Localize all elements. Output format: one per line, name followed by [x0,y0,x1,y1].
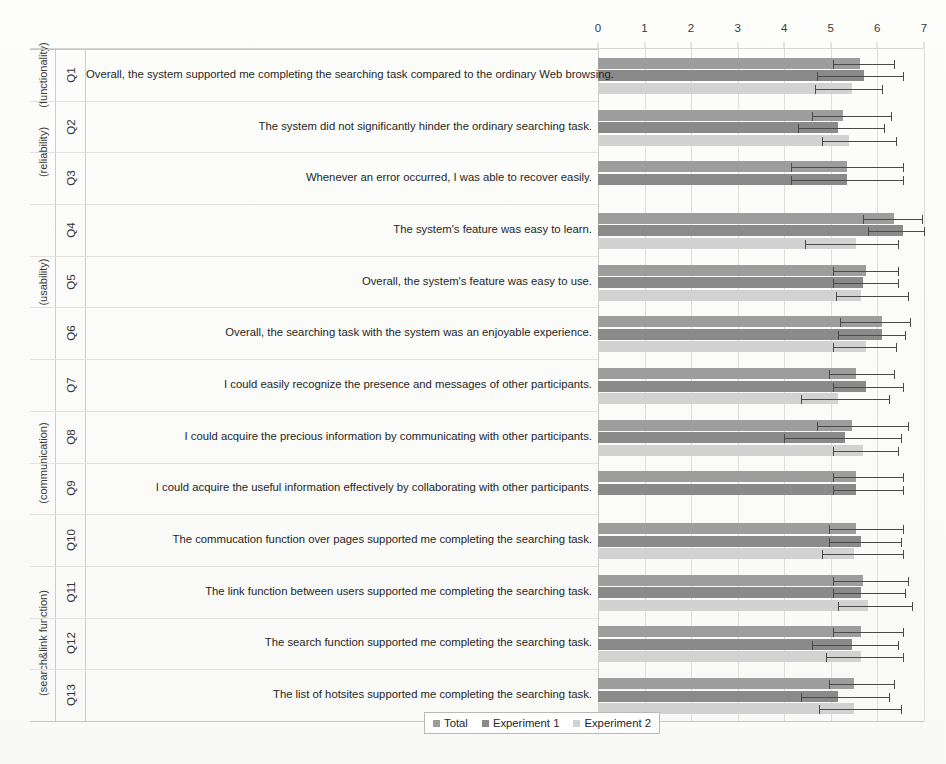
x-axis-tick-label: 5 [828,22,835,34]
error-bar-cap-upper [908,292,909,301]
error-bar-cap-upper [908,422,909,431]
error-bar-cap-upper [905,589,906,598]
question-id-cell-q2: Q2 [56,101,86,153]
question-id-label: Q13 [65,684,77,706]
category-group-usability: (usability) [30,204,56,359]
error-bar-cap-lower [833,486,834,495]
error-bar-cap-lower [829,680,830,689]
question-id-cell-q4: Q4 [56,204,86,256]
row-separator [30,566,598,567]
error-bar-line [833,451,898,452]
error-bar-cap-lower [868,227,869,236]
legend-item-experiment-2[interactable]: Experiment 2 [573,717,651,729]
group-separator [30,49,598,50]
error-bar-cap-upper [912,602,913,611]
error-bar-cap-upper [903,72,904,81]
bar-q7-experiment-1 [598,381,866,392]
error-bar-cap-upper [922,215,923,224]
error-bar-line [784,438,900,439]
error-bar-cap-upper [882,85,883,94]
error-bar-cap-upper [903,486,904,495]
question-id-label: Q9 [65,481,77,496]
bar-q5-total [598,265,866,276]
bar-q10-experiment-1 [598,536,861,547]
legend-item-total[interactable]: Total [433,717,468,729]
error-bar-line [836,296,908,297]
bar-q12-total [598,626,861,637]
error-bar-line [798,128,884,129]
question-id-cell-q3: Q3 [56,152,86,204]
bar-q4-experiment-1 [598,225,903,236]
error-bar-cap-upper [901,705,902,714]
error-bar-cap-upper [908,577,909,586]
row-separator [30,669,598,670]
question-text-q11: The link function between users supporte… [86,585,598,599]
question-id-cell-q9: Q9 [56,463,86,515]
question-id-label: Q2 [65,119,77,134]
x-axis-tick-label: 7 [921,22,928,34]
bar-q2-experiment-2 [598,135,849,146]
bar-q10-experiment-2 [598,548,854,559]
error-bar-line [812,645,898,646]
error-bar-line [868,231,924,232]
error-bar-line [812,116,891,117]
error-bar-cap-lower [829,370,830,379]
error-bar-cap-lower [817,422,818,431]
x-axis-tick-label: 0 [595,22,602,34]
error-bar-line [840,322,910,323]
error-bar-cap-lower [829,538,830,547]
error-bar-cap-upper [903,653,904,662]
error-bar-cap-lower [836,292,837,301]
error-bar-cap-lower [833,279,834,288]
error-bar-line [791,167,903,168]
error-bar-cap-lower [833,473,834,482]
error-bar-line [822,554,904,555]
question-id-label: Q8 [65,429,77,444]
bar-q12-experiment-2 [598,651,861,662]
bar-q8-experiment-2 [598,445,863,456]
x-axis-tick-label: 2 [688,22,695,34]
error-bar-cap-upper [889,693,890,702]
chart-legend[interactable]: TotalExperiment 1Experiment 2 [424,712,660,734]
error-bar-cap-lower [812,112,813,121]
error-bar-cap-upper [901,434,902,443]
error-bar-cap-lower [801,693,802,702]
error-bar-cap-lower [826,653,827,662]
legend-swatch-icon [482,720,489,727]
x-axis-tick-label: 4 [781,22,788,34]
question-id-cell-q7: Q7 [56,359,86,411]
bar-q13-total [598,678,854,689]
bar-q5-experiment-1 [598,277,863,288]
row-separator [30,307,598,308]
bar-q11-total [598,575,863,586]
error-bar-line [817,426,908,427]
bar-q4-total [598,213,894,224]
question-text-q10: The commucation function over pages supp… [86,533,598,547]
row-separator [30,152,598,153]
error-bar-cap-lower [791,176,792,185]
gridline [924,49,925,721]
error-bar-cap-upper [903,176,904,185]
category-group-label: (search&link function) [37,591,49,697]
error-bar-cap-upper [924,227,925,236]
error-bar-cap-lower [819,705,820,714]
legend-item-experiment-1[interactable]: Experiment 1 [482,717,560,729]
error-bar-cap-lower [833,267,834,276]
error-bar-cap-lower [791,163,792,172]
row-separator [30,514,598,515]
question-id-cell-q12: Q12 [56,618,86,670]
row-separator [30,359,598,360]
bar-q1-total [598,58,860,69]
error-bar-cap-upper [896,343,897,352]
x-axis-tick-label: 6 [874,22,881,34]
question-text-q8: I could acquire the precious information… [86,430,598,444]
error-bar-cap-lower [838,331,839,340]
error-bar-cap-upper [898,641,899,650]
question-id-label: Q12 [65,633,77,655]
row-separator [30,618,598,619]
bar-q10-total [598,523,856,534]
error-bar-line [826,657,903,658]
error-bar-cap-lower [798,124,799,133]
error-bar-cap-upper [898,240,899,249]
question-id-label: Q4 [65,222,77,237]
